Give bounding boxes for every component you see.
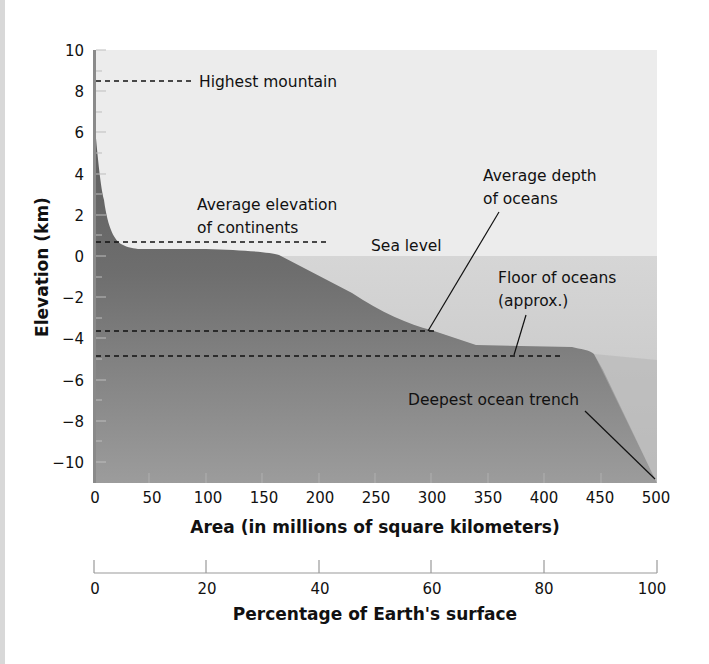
svg-text:4: 4 [74,166,84,184]
svg-text:200: 200 [306,489,335,507]
label-ocean-floor-line1: Floor of oceans [498,269,616,287]
svg-text:40: 40 [310,580,329,598]
label-ocean-floor-line2: (approx.) [498,292,568,310]
svg-text:−8: −8 [62,413,84,431]
svg-text:100: 100 [194,489,223,507]
label-avg-elevation-line2: of continents [197,219,298,237]
secondary-x-axis [94,560,657,573]
svg-text:400: 400 [530,489,559,507]
svg-text:−10: −10 [52,454,84,472]
svg-text:60: 60 [422,580,441,598]
x-tick-labels: 0 50 100 150 200 250 300 350 400 450 500 [90,489,670,507]
svg-text:0: 0 [90,489,100,507]
svg-text:150: 150 [250,489,279,507]
svg-text:80: 80 [534,580,553,598]
svg-text:500: 500 [642,489,671,507]
y-tick-labels: 10 8 6 4 2 0 −2 −4 −6 −8 −10 [52,42,84,472]
svg-text:100: 100 [638,580,667,598]
label-deepest-trench: Deepest ocean trench [408,391,579,409]
label-avg-elevation-line1: Average elevation [197,196,337,214]
secondary-x-axis-title: Percentage of Earth's surface [233,604,517,624]
svg-text:250: 250 [362,489,391,507]
svg-text:10: 10 [65,42,84,60]
svg-text:20: 20 [197,580,216,598]
svg-text:2: 2 [74,207,84,225]
svg-text:450: 450 [586,489,615,507]
svg-text:300: 300 [418,489,447,507]
y-axis-title: Elevation (km) [32,197,52,337]
label-sea-level: Sea level [371,237,442,255]
hypsographic-chart: Highest mountain Average elevation of co… [0,0,709,664]
svg-text:−2: −2 [62,289,84,307]
secondary-x-tick-labels: 0 20 40 60 80 100 [90,580,666,598]
svg-text:0: 0 [74,248,84,266]
label-avg-depth-line1: Average depth [483,167,597,185]
svg-text:6: 6 [74,124,84,142]
y-axis-line [93,50,96,483]
svg-text:−6: −6 [62,372,84,390]
svg-text:350: 350 [474,489,503,507]
label-highest-mountain: Highest mountain [199,73,337,91]
label-avg-depth-line2: of oceans [483,190,558,208]
svg-text:−4: −4 [62,330,84,348]
svg-text:8: 8 [74,83,84,101]
x-axis-title: Area (in millions of square kilometers) [190,517,559,537]
svg-text:0: 0 [90,580,100,598]
svg-text:50: 50 [142,489,161,507]
